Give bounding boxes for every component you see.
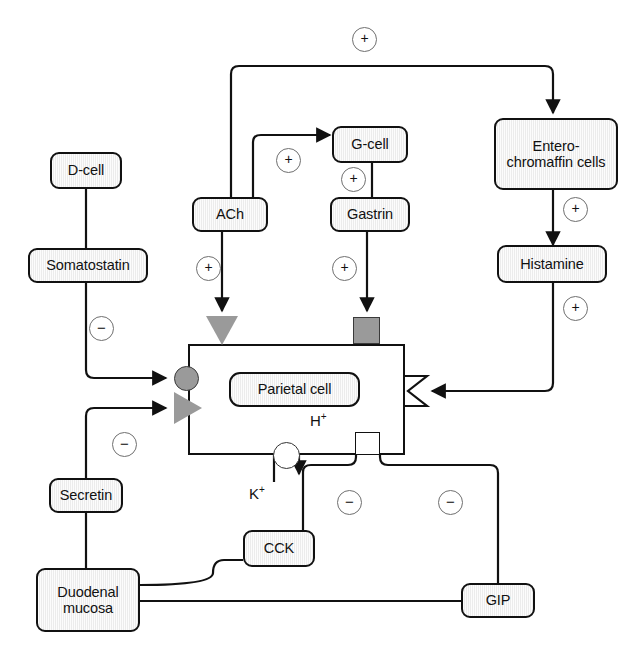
histamine-notch-receptor bbox=[405, 376, 427, 406]
sign-plus-ec-to-histamine: + bbox=[563, 197, 588, 222]
sign-plus-gcell-to-gastrin: + bbox=[341, 167, 366, 192]
node-gastrin[interactable]: Gastrin bbox=[330, 197, 410, 232]
duodenal-mucosa-line-1: Duodenal bbox=[57, 584, 118, 600]
edge-gip-to-pump bbox=[380, 443, 498, 583]
edge-cck-to-pump bbox=[303, 443, 356, 530]
edge-histamine-to-parietal bbox=[432, 283, 553, 391]
node-ach[interactable]: ACh bbox=[192, 197, 268, 232]
node-d-cell[interactable]: D-cell bbox=[50, 152, 122, 189]
gastrin-receptor-icon bbox=[353, 317, 380, 344]
sign-plus-ach-to-parietal: + bbox=[196, 256, 221, 281]
node-duodenal-mucosa[interactable]: Duodenal mucosa bbox=[36, 568, 140, 632]
ach-receptor-icon bbox=[206, 316, 238, 345]
sign-plus-gastrin-to-parietal: + bbox=[332, 256, 357, 281]
duodenal-mucosa-line-2: mucosa bbox=[63, 600, 113, 616]
proton-pump-icon bbox=[273, 442, 300, 469]
sign-plus-histamine-to-parietal: + bbox=[563, 296, 588, 321]
parietal-cell-regulation-diagram: H+ K+ D-cell Somatostatin ACh G-cell Gas… bbox=[0, 0, 641, 658]
node-parietal-cell-label[interactable]: Parietal cell bbox=[229, 372, 360, 407]
sign-plus-ach-to-gcell: + bbox=[276, 148, 301, 173]
sign-minus-cck: − bbox=[337, 490, 362, 515]
sign-minus-somatostatin: − bbox=[89, 316, 114, 341]
node-g-cell[interactable]: G-cell bbox=[332, 126, 408, 163]
potassium-symbol: K bbox=[249, 485, 259, 502]
enterochromaffin-line-1: Entero- bbox=[533, 138, 580, 154]
pump-inhibition-site-icon bbox=[355, 432, 380, 455]
secretin-receptor-icon bbox=[174, 392, 202, 424]
hydrogen-symbol: H bbox=[310, 412, 321, 429]
node-histamine[interactable]: Histamine bbox=[497, 245, 607, 283]
sign-minus-gip: − bbox=[438, 490, 463, 515]
potassium-ion-label: K+ bbox=[249, 484, 265, 502]
somatostatin-receptor-icon bbox=[174, 366, 199, 391]
potassium-charge: + bbox=[259, 484, 265, 495]
node-enterochromaffin-cells[interactable]: Entero- chromaffin cells bbox=[494, 118, 618, 190]
node-cck[interactable]: CCK bbox=[243, 530, 315, 567]
sign-plus-ach-to-enterochromaffin: + bbox=[352, 27, 377, 52]
hydrogen-charge: + bbox=[321, 411, 327, 422]
node-gip[interactable]: GIP bbox=[461, 583, 535, 618]
edge-duodenum-to-cck bbox=[140, 560, 243, 585]
node-secretin[interactable]: Secretin bbox=[49, 478, 123, 513]
node-somatostatin[interactable]: Somatostatin bbox=[28, 248, 148, 283]
enterochromaffin-line-2: chromaffin cells bbox=[507, 154, 606, 170]
sign-minus-secretin: − bbox=[112, 432, 137, 457]
hydrogen-ion-label: H+ bbox=[310, 411, 327, 429]
